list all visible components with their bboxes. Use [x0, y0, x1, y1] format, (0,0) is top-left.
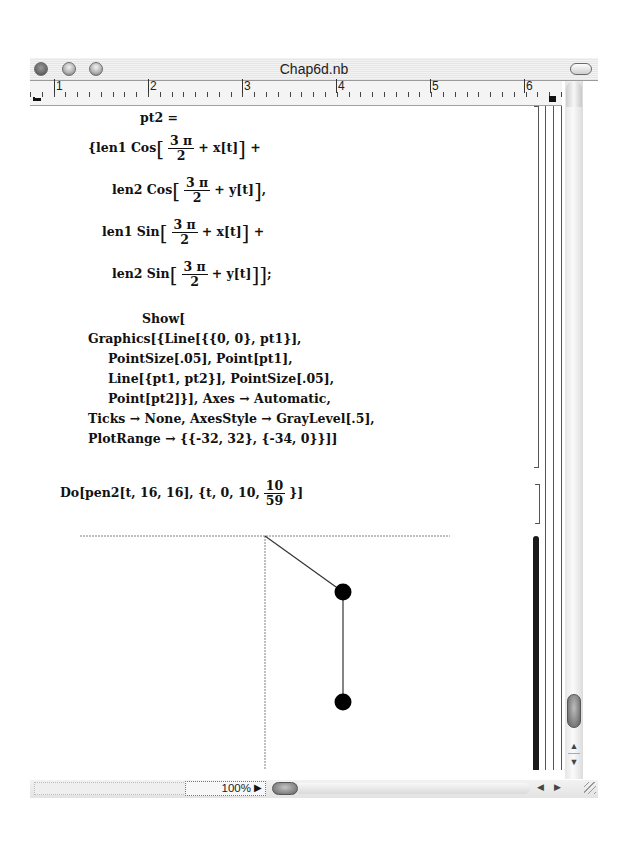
ruler-mark: 4: [336, 79, 345, 93]
fraction: 3 π2: [168, 134, 194, 163]
code-line: PointSize[.05], Point[pt1],: [108, 351, 293, 366]
code-line: Ticks → None, AxesStyle → GrayLevel[.5],: [88, 411, 375, 426]
fraction: 3 π2: [172, 218, 198, 247]
ruler[interactable]: 1 2 3 4 5 6: [30, 81, 562, 106]
code-text: len2 Sin: [112, 266, 170, 281]
ruler-mark: 6: [524, 79, 533, 93]
code-line: len1 Sin[3 π2+ x[t]] +: [102, 218, 264, 247]
code-text: }]: [289, 485, 303, 500]
status-area: [34, 782, 186, 795]
right-margin-marker[interactable]: [549, 96, 556, 102]
code-text: + y[t]: [212, 266, 252, 281]
cell-bracket-graphic-selected[interactable]: [533, 536, 539, 770]
pendulum-arm-1: [265, 536, 343, 592]
window-title: Chap6d.nb: [30, 61, 598, 77]
scroll-left-arrow-icon[interactable]: ◀: [537, 782, 544, 792]
code-line: Line[{pt1, pt2}], PointSize[.05],: [108, 371, 334, 386]
toolbar-toggle-button[interactable]: [570, 63, 592, 75]
left-margin-marker[interactable]: [33, 97, 41, 101]
input-cell-do[interactable]: Do[pen2[t, 16, 16], {t, 0, 10,1059}]: [30, 471, 500, 521]
input-cell-pt2[interactable]: pt2 = {len1 Cos[3 π2+ x[t]] + len2 Cos[3…: [30, 106, 500, 466]
fraction: 3 π2: [184, 176, 210, 205]
cell-bracket-do[interactable]: [535, 484, 540, 524]
output-graphic[interactable]: [80, 534, 450, 770]
code-line: Point[pt2]}], Axes → Automatic,: [108, 391, 331, 406]
group-bracket-3[interactable]: [561, 106, 562, 770]
code-text: + x[t]: [202, 224, 242, 239]
horizontal-scroll-thumb[interactable]: [272, 782, 298, 795]
group-bracket-1[interactable]: [545, 106, 546, 770]
code-text: Do[pen2[t, 16, 16], {t, 0, 10,: [60, 485, 260, 500]
pendulum-bob-1: [335, 584, 352, 601]
ruler-mark: 5: [430, 79, 439, 93]
code-text: len1 Sin: [102, 224, 160, 239]
code-line: {len1 Cos[3 π2+ x[t]] +: [88, 134, 261, 163]
vertical-scroll-thumb[interactable]: [567, 694, 581, 728]
title-bar[interactable]: Chap6d.nb: [30, 58, 598, 81]
code-text: + x[t]: [198, 140, 238, 155]
magnification-menu-arrow-icon[interactable]: ▶: [254, 782, 262, 793]
code-line: Do[pen2[t, 16, 16], {t, 0, 10,1059}]: [60, 479, 303, 508]
scroll-up-arrow-icon[interactable]: ▲: [568, 739, 580, 754]
ruler-ticks: [30, 92, 562, 97]
fraction: 3 π2: [182, 260, 208, 289]
code-line: len2 Sin[3 π2+ y[t]]];: [112, 260, 272, 289]
horizontal-scroll-track[interactable]: [298, 783, 530, 794]
ruler-mark: 2: [148, 79, 157, 93]
code-line: Show[: [142, 311, 185, 326]
notebook-window: Chap6d.nb 1 2 3 4 5 6 pt2 = {len1 Cos[3 …: [30, 58, 598, 810]
fraction: 1059: [264, 479, 285, 508]
notebook-content[interactable]: pt2 = {len1 Cos[3 π2+ x[t]] + len2 Cos[3…: [30, 106, 564, 770]
group-bracket-2[interactable]: [553, 106, 554, 770]
code-line: pt2 =: [140, 110, 178, 125]
cell-bracket-pt2[interactable]: [534, 106, 539, 468]
pendulum-bob-2: [335, 694, 352, 711]
scrollbar-track-top: [566, 81, 582, 107]
code-text: len2 Cos: [112, 182, 172, 197]
pendulum-plot: [80, 534, 450, 770]
code-text: {len1 Cos: [88, 140, 156, 155]
code-text: + y[t]: [214, 182, 254, 197]
code-line: PlotRange → {{-32, 32}, {-34, 0}}]]: [88, 431, 337, 446]
code-line: len2 Cos[3 π2+ y[t]],: [112, 176, 266, 205]
ruler-mark: 1: [54, 79, 63, 93]
scroll-right-arrow-icon[interactable]: ▶: [554, 782, 561, 792]
vertical-scrollbar[interactable]: ▲ ▼: [565, 81, 583, 779]
horizontal-scrollbar[interactable]: 100% ▶ ◀ ▶: [30, 780, 598, 798]
resize-grip-icon[interactable]: [584, 782, 596, 794]
scroll-down-arrow-icon[interactable]: ▼: [568, 755, 580, 769]
ruler-mark: 3: [242, 79, 251, 93]
code-line: Graphics[{Line[{{0, 0}, pt1}],: [88, 331, 301, 346]
